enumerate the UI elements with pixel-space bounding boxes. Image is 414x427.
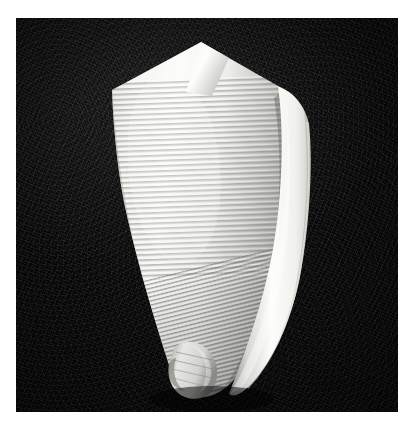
photo-plate xyxy=(16,18,398,412)
page-margin-left xyxy=(0,0,16,427)
page-margin-right xyxy=(398,0,414,427)
shell-specimen xyxy=(16,18,398,412)
page-margin-bottom xyxy=(0,412,414,427)
shell-illustration xyxy=(16,18,398,412)
page-margin-top xyxy=(0,0,414,18)
page-canvas xyxy=(0,0,414,427)
contact-shadow xyxy=(150,386,274,412)
